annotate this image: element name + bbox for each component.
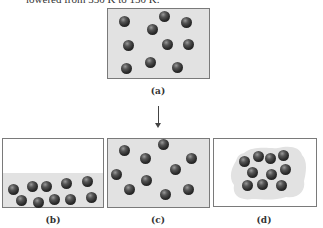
particle (278, 150, 289, 161)
caption-text: lowered from 350 K to 150 K. (26, 0, 160, 5)
particle (119, 16, 130, 27)
panel-c-label: (c) (151, 215, 165, 225)
particle (170, 164, 181, 175)
particle (121, 63, 132, 74)
arrow-head-icon (155, 123, 161, 128)
particle (265, 153, 276, 164)
particle (41, 181, 52, 192)
particle (242, 180, 253, 191)
particle (276, 180, 287, 191)
particle (280, 164, 291, 175)
particle (119, 145, 130, 156)
particle (239, 156, 250, 167)
particle (172, 62, 183, 73)
particle (257, 179, 268, 190)
particle (247, 167, 258, 178)
particle (27, 181, 38, 192)
particle (253, 151, 264, 162)
particle (183, 184, 194, 195)
particle (159, 11, 170, 22)
particle (145, 57, 156, 68)
particle (49, 194, 60, 205)
particle (124, 184, 135, 195)
panel-a-label: (a) (151, 86, 165, 96)
particle (86, 192, 97, 203)
particle (82, 176, 93, 187)
particle (186, 153, 197, 164)
particle (141, 175, 152, 186)
particle (123, 40, 134, 51)
particle (266, 169, 277, 180)
panel-d-label: (d) (257, 215, 272, 225)
particle (16, 195, 27, 206)
panel-d-container (213, 138, 317, 207)
particle (158, 139, 169, 150)
particle (33, 197, 44, 208)
particle (140, 153, 151, 164)
particle (147, 24, 158, 35)
particle (61, 178, 72, 189)
particle (8, 184, 19, 195)
particle (160, 189, 171, 200)
particle (181, 17, 192, 28)
particle (162, 39, 173, 50)
panel-b-label: (b) (46, 215, 61, 225)
particle (65, 194, 76, 205)
particle (111, 169, 122, 180)
particle (183, 39, 194, 50)
